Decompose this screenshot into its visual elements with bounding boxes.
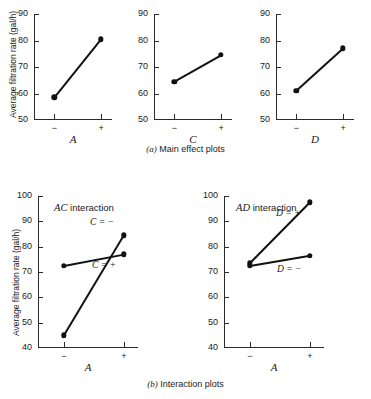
data-point xyxy=(294,88,299,93)
y-tick-mark xyxy=(155,94,159,95)
x-tick xyxy=(250,342,251,347)
y-tick-label: 80 xyxy=(22,240,32,253)
panel-title-ad-factors: AD xyxy=(236,202,250,213)
x-tick xyxy=(221,114,222,119)
y-tick-label: 60 xyxy=(22,290,32,303)
y-tick-label: 50 xyxy=(260,113,270,126)
series-label: D = − xyxy=(277,264,301,275)
main-effect-plot-a: 5060708090−+ Average filtration rate (ga… xyxy=(34,14,112,120)
x-tick xyxy=(124,342,125,347)
y-tick-label: 100 xyxy=(203,189,218,202)
y-tick-mark xyxy=(35,14,39,15)
y-tick-mark xyxy=(155,41,159,42)
y-tick-label: 70 xyxy=(138,60,148,73)
x-tick-label: − xyxy=(247,351,252,361)
y-tick-label: 70 xyxy=(260,60,270,73)
y-tick-label: 40 xyxy=(208,341,218,354)
data-point xyxy=(98,36,103,41)
series-ad xyxy=(224,196,324,348)
y-tick-mark xyxy=(39,247,43,248)
data-line xyxy=(174,54,222,82)
x-tick-label: − xyxy=(294,123,299,133)
y-axis-label: Average filtration rate (gal/h) xyxy=(11,229,21,336)
panel-title-ac: AC interaction xyxy=(54,202,114,213)
x-tick-label: + xyxy=(340,123,345,133)
data-point xyxy=(121,233,126,238)
caption-a-text: Main effect plots xyxy=(159,144,224,154)
data-point xyxy=(61,263,66,268)
y-tick-label: 90 xyxy=(22,214,32,227)
x-tick xyxy=(64,342,65,347)
factorial-effects-figure: 5060708090−+ Average filtration rate (ga… xyxy=(0,0,371,399)
x-tick xyxy=(101,114,102,119)
caption-b-text: Interaction plots xyxy=(160,379,224,389)
caption-a: (a) Main effect plots xyxy=(0,143,371,155)
data-line xyxy=(54,39,102,98)
series-label: C = + xyxy=(92,260,116,271)
caption-b: (b) Interaction plots xyxy=(0,378,371,390)
y-axis-label: Average filtration rate (gal/h) xyxy=(8,11,18,118)
data-point xyxy=(340,46,345,51)
y-tick-mark xyxy=(35,67,39,68)
y-tick-label: 60 xyxy=(138,87,148,100)
data-point xyxy=(121,252,126,257)
main-effect-plot-d: 5060708090−+ D xyxy=(276,14,354,120)
y-tick-mark xyxy=(277,14,281,15)
panel-title-ac-factors: AC xyxy=(54,202,67,213)
panel-title-ad: AD interaction xyxy=(236,202,296,213)
caption-a-prefix: (a) xyxy=(146,144,157,154)
x-axis-title-ad: A xyxy=(271,361,278,373)
data-point xyxy=(247,263,252,268)
y-tick-label: 50 xyxy=(18,113,28,126)
x-tick-label: + xyxy=(218,123,223,133)
y-tick-mark xyxy=(277,94,281,95)
data-point xyxy=(307,253,312,258)
x-tick xyxy=(343,114,344,119)
y-tick-mark xyxy=(225,323,229,324)
y-tick-label: 90 xyxy=(208,214,218,227)
data-point xyxy=(61,333,66,338)
y-tick-label: 80 xyxy=(18,34,28,47)
x-axis-title-ac: A xyxy=(85,361,92,373)
main-effect-plot-c: 5060708090−+ C xyxy=(154,14,232,120)
y-tick-mark xyxy=(225,272,229,273)
y-tick-label: 60 xyxy=(260,87,270,100)
y-tick-mark xyxy=(39,323,43,324)
interaction-plot-ac: 405060708090100−+C = −C = + Average filt… xyxy=(38,196,138,348)
y-tick-label: 40 xyxy=(22,341,32,354)
y-tick-mark xyxy=(225,247,229,248)
data-point xyxy=(218,52,223,57)
y-tick-label: 60 xyxy=(208,290,218,303)
y-tick-label: 70 xyxy=(208,265,218,278)
series-ac xyxy=(38,196,138,348)
y-tick-mark xyxy=(225,297,229,298)
series-label: C = − xyxy=(90,217,114,228)
y-tick-label: 90 xyxy=(260,7,270,20)
series-d xyxy=(276,14,354,120)
y-tick-label: 50 xyxy=(208,316,218,329)
y-tick-mark xyxy=(277,41,281,42)
y-tick-label: 70 xyxy=(22,265,32,278)
y-tick-mark xyxy=(225,221,229,222)
y-tick-mark xyxy=(39,272,43,273)
x-tick-label: + xyxy=(121,351,126,361)
x-tick xyxy=(310,342,311,347)
x-tick xyxy=(296,114,297,119)
y-tick-mark xyxy=(39,297,43,298)
y-tick-mark xyxy=(35,94,39,95)
y-tick-mark xyxy=(39,221,43,222)
y-tick-mark xyxy=(35,41,39,42)
x-tick-label: − xyxy=(61,351,66,361)
y-tick-label: 50 xyxy=(22,316,32,329)
y-tick-mark xyxy=(225,196,229,197)
x-tick-label: + xyxy=(98,123,103,133)
x-tick-label: + xyxy=(307,351,312,361)
y-tick-label: 50 xyxy=(138,113,148,126)
y-tick-label: 70 xyxy=(18,60,28,73)
data-line xyxy=(296,48,344,92)
y-tick-label: 80 xyxy=(260,34,270,47)
x-tick-label: − xyxy=(52,123,57,133)
series-c xyxy=(154,14,232,120)
x-tick-label: − xyxy=(172,123,177,133)
x-tick xyxy=(174,114,175,119)
